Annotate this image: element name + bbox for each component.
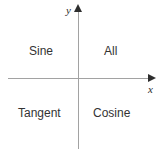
- quadrant-2-label: Sine: [29, 45, 53, 57]
- arrow-up-icon: [74, 4, 82, 12]
- quadrant-4-label: Cosine: [93, 107, 130, 119]
- quadrant-3-label: Tangent: [18, 107, 61, 119]
- y-axis-line: [78, 10, 79, 149]
- arrow-right-icon: [148, 74, 156, 82]
- x-axis-line: [8, 78, 150, 79]
- quadrant-diagram: x y Sine All Tangent Cosine: [0, 0, 164, 149]
- quadrant-1-label: All: [104, 45, 117, 57]
- x-axis-label: x: [148, 84, 153, 95]
- y-axis-label: y: [66, 5, 71, 16]
